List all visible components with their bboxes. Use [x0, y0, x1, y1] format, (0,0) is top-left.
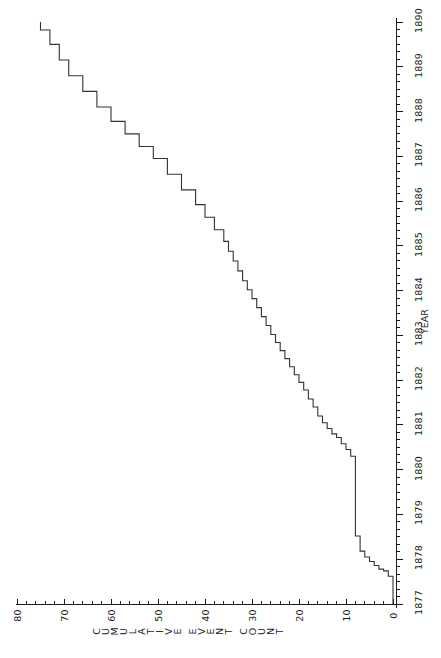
year-axis-minor-ticks [397, 29, 401, 596]
count-tick-label: 50 [153, 605, 164, 625]
count-tick-label: 80 [12, 605, 23, 625]
year-tick-label: 1877 [412, 589, 423, 617]
year-tick-label: 1890 [412, 7, 423, 35]
year-tick-label: 1889 [412, 51, 423, 79]
year-tick-label: 1881 [412, 409, 423, 437]
year-axis-title: YEAR [419, 307, 430, 337]
count-tick-label: 20 [294, 605, 305, 625]
year-tick-label: 1888 [412, 96, 423, 124]
count-tick-label: 0 [388, 605, 399, 625]
year-tick-label: 1887 [412, 141, 423, 169]
year-axis [397, 18, 403, 608]
count-tick-label: 40 [200, 605, 211, 625]
year-tick-label: 1880 [412, 454, 423, 482]
step-chart-plot [0, 0, 441, 658]
count-tick-label: 30 [247, 605, 258, 625]
count-tick-label: 10 [341, 605, 352, 625]
year-tick-label: 1886 [412, 186, 423, 214]
year-tick-label: 1882 [412, 365, 423, 393]
count-axis-title: CUMULATIVE EVENT COUNT [92, 626, 284, 637]
count-tick-label: 70 [59, 605, 70, 625]
year-tick-label: 1885 [412, 230, 423, 258]
year-tick-label: 1879 [412, 499, 423, 527]
year-tick-label: 1884 [412, 275, 423, 303]
count-axis-title-glyph: T [274, 627, 285, 636]
cumulative-step-curve [41, 22, 394, 604]
count-axis [16, 599, 396, 605]
chart-container: 80706050403020100 1877187818791880188118… [0, 0, 441, 658]
count-tick-label: 60 [106, 605, 117, 625]
year-tick-label: 1878 [412, 544, 423, 572]
